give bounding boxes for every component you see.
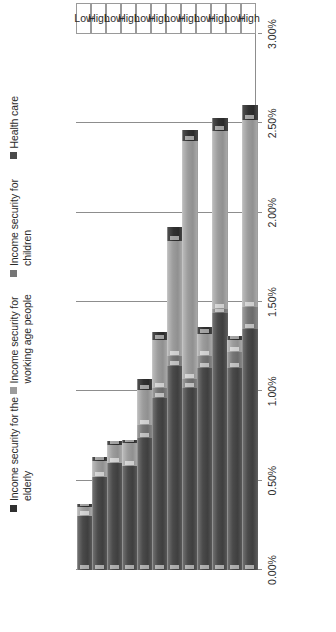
category-label-cell: High: [241, 4, 256, 34]
category-label: High: [208, 13, 230, 25]
bar-segment-highlight: [200, 565, 209, 569]
bar-segment[interactable]: [122, 440, 138, 444]
bar-segment[interactable]: [122, 466, 138, 570]
bar-stack[interactable]: [167, 227, 181, 570]
bar-segment[interactable]: [242, 329, 258, 570]
bar-stack[interactable]: [122, 440, 136, 570]
bar-segment[interactable]: [77, 507, 93, 516]
legend-swatch-icon: [10, 505, 17, 512]
bar-segment-highlight: [95, 565, 104, 569]
axis-tick-mark: [258, 569, 262, 570]
bar-segment[interactable]: [137, 379, 153, 390]
legend-item[interactable]: Income security for children: [8, 160, 33, 278]
gridline: [76, 122, 256, 123]
bar-segment[interactable]: [77, 504, 93, 508]
bar-segment[interactable]: [152, 340, 168, 388]
bar-segment-highlight: [170, 565, 179, 569]
bar-segment-highlight: [245, 565, 254, 569]
bar-segment[interactable]: [197, 327, 213, 334]
gridline: [76, 212, 256, 213]
bar-segment[interactable]: [167, 227, 183, 241]
legend-item[interactable]: Income security for working age people: [8, 277, 33, 395]
bar-segment[interactable]: [227, 336, 243, 340]
axis-tick-mark: [258, 301, 262, 302]
bar-segment-highlight: [110, 440, 119, 444]
category-label: Low: [224, 13, 243, 25]
bar-segment[interactable]: [197, 356, 213, 369]
bar-stack[interactable]: [227, 336, 241, 570]
bar-segment[interactable]: [137, 390, 153, 426]
legend-item[interactable]: Income security for the elderly: [8, 395, 33, 513]
bar-segment[interactable]: [122, 443, 138, 466]
bar-segment-highlight: [110, 458, 119, 462]
bar-segment-highlight: [80, 511, 89, 515]
bar-segment[interactable]: [242, 106, 258, 120]
bar-segment[interactable]: [92, 461, 108, 477]
bar-segment[interactable]: [212, 118, 228, 131]
bar-segment-highlight: [230, 565, 239, 569]
bar-segment[interactable]: [182, 131, 198, 142]
bar-stack[interactable]: [107, 441, 121, 570]
category-label: Low: [164, 13, 183, 25]
bar-segment[interactable]: [242, 120, 258, 308]
bar-segment-highlight: [185, 565, 194, 569]
category-label: Low: [104, 13, 123, 25]
bar-segment-highlight: [200, 329, 209, 333]
bar-stack[interactable]: [197, 327, 211, 570]
bar-segment[interactable]: [227, 340, 243, 353]
bar-segment[interactable]: [182, 379, 198, 388]
bar-stack[interactable]: [77, 504, 91, 570]
bar-segment[interactable]: [77, 516, 93, 570]
bar-stack[interactable]: [242, 106, 256, 571]
bar-segment-highlight: [170, 236, 179, 240]
axis-tick-label: 3.00%: [266, 19, 278, 49]
bar-segment[interactable]: [167, 356, 183, 367]
legend-item-label: Income security for the elderly: [8, 395, 33, 502]
bar-segment[interactable]: [92, 457, 108, 461]
bar-segment[interactable]: [197, 368, 213, 570]
category-label-cell: Low: [196, 4, 211, 34]
bar-segment[interactable]: [182, 141, 198, 379]
bar-segment[interactable]: [227, 352, 243, 368]
bar-segment[interactable]: [227, 368, 243, 570]
category-label-cell: High: [181, 4, 196, 34]
legend-item-label: Income security for children: [8, 160, 33, 267]
category-label: High: [178, 13, 200, 25]
bar-segment-highlight: [185, 383, 194, 387]
bar-stack[interactable]: [182, 131, 196, 571]
bar-segment[interactable]: [182, 388, 198, 570]
bar-segment[interactable]: [212, 131, 228, 310]
bar-segment[interactable]: [107, 463, 123, 570]
bar-segment-highlight: [245, 324, 254, 328]
bar-segment[interactable]: [137, 438, 153, 570]
category-label-cell: Low: [76, 4, 91, 34]
bar-stack[interactable]: [212, 118, 226, 570]
bar-stack[interactable]: [152, 332, 166, 570]
bar-segment[interactable]: [107, 445, 123, 463]
bar-segment[interactable]: [242, 307, 258, 328]
bar-segment[interactable]: [137, 425, 153, 438]
bar-segment[interactable]: [92, 477, 108, 570]
bar-segment-highlight: [125, 461, 134, 465]
legend-item-label: Health care: [8, 96, 21, 149]
category-label: High: [88, 13, 110, 25]
axis-tick-label: 1.50%: [266, 287, 278, 317]
plot-area: [76, 34, 256, 570]
bar-segment-highlight: [155, 393, 164, 397]
bar-stack[interactable]: [137, 379, 151, 570]
bar-segment[interactable]: [212, 309, 228, 313]
bar-segment[interactable]: [107, 441, 123, 445]
bar-segment-highlight: [245, 302, 254, 306]
bar-segment[interactable]: [152, 398, 168, 570]
legend-item-label: Income security for working age people: [8, 277, 33, 384]
bar-segment[interactable]: [197, 334, 213, 355]
bar-segment[interactable]: [167, 366, 183, 570]
legend-item[interactable]: Health care: [8, 42, 21, 160]
axis-tick-mark: [258, 212, 262, 213]
bar-segment[interactable]: [167, 241, 183, 355]
bar-segment[interactable]: [152, 388, 168, 399]
bar-segment[interactable]: [152, 332, 168, 339]
bar-segment[interactable]: [212, 313, 228, 570]
bar-stack[interactable]: [92, 457, 106, 570]
bar-segment-highlight: [140, 433, 149, 437]
